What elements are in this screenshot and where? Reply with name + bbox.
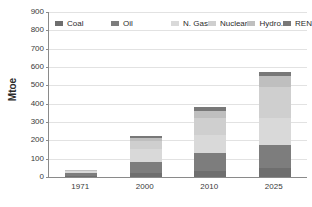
legend-swatch-icon: [171, 21, 179, 26]
bar-segment[interactable]: [194, 153, 226, 171]
y-axis-tick-label: 100: [31, 155, 44, 163]
bar-segment[interactable]: [259, 76, 291, 87]
y-axis-title-label: Mtoe: [8, 77, 19, 100]
bar-segment[interactable]: [130, 173, 162, 177]
bar-segment[interactable]: [65, 176, 97, 177]
legend-item[interactable]: Coal: [55, 17, 111, 29]
bar-segment[interactable]: [130, 162, 162, 173]
bar-stack[interactable]: [194, 107, 226, 177]
bar-segment[interactable]: [130, 141, 162, 149]
y-axis-tick-mark: [46, 177, 49, 178]
legend-swatch-icon: [208, 21, 216, 26]
x-axis-tick-label: 1971: [71, 182, 89, 192]
legend-label: N. Gas: [183, 19, 208, 28]
bar-segment[interactable]: [194, 111, 226, 118]
legend-item[interactable]: Oil: [111, 17, 171, 29]
legend-label: REN: [295, 19, 312, 28]
y-axis-tick-label: 700: [31, 45, 44, 53]
y-axis-tick-label: 400: [31, 100, 44, 108]
x-axis-tick-label: 2025: [265, 182, 283, 192]
y-axis-tick-label: 600: [31, 63, 44, 71]
plot-area: [48, 12, 307, 178]
stacked-bar-chart: Mtoe 0100200300400500600700800900 197120…: [0, 0, 312, 207]
y-axis-tick-label: 200: [31, 136, 44, 144]
legend-swatch-icon: [283, 21, 291, 26]
bar-stack[interactable]: [130, 136, 162, 177]
y-axis-tick-label: 800: [31, 26, 44, 34]
legend-label: Hydro.: [259, 19, 283, 28]
legend-swatch-icon: [247, 21, 255, 26]
legend-item[interactable]: Hydro.: [247, 17, 283, 29]
x-axis-tick-labels: 1971200020102025: [48, 182, 306, 196]
bar-segment[interactable]: [259, 87, 291, 118]
bar-segment[interactable]: [259, 118, 291, 145]
legend-label: Nuclear: [220, 19, 248, 28]
chart-legend: CoalOilN. GasNuclearHydro.REN: [55, 17, 312, 29]
bar-segment[interactable]: [259, 145, 291, 168]
legend-item[interactable]: N. Gas: [171, 17, 208, 29]
bar-segment[interactable]: [130, 149, 162, 161]
legend-item[interactable]: Nuclear: [208, 17, 248, 29]
x-axis-tick-label: 2000: [136, 182, 154, 192]
bar-segment[interactable]: [194, 118, 226, 135]
legend-label: Oil: [123, 19, 133, 28]
legend-swatch-icon: [111, 21, 119, 26]
bar-series-container: [49, 12, 307, 177]
bar-stack[interactable]: [259, 72, 291, 177]
y-axis-tick-labels: 0100200300400500600700800900: [20, 12, 46, 177]
bar-stack[interactable]: [65, 170, 97, 177]
y-axis-tick-label: 500: [31, 81, 44, 89]
bar-segment[interactable]: [194, 171, 226, 177]
legend-item[interactable]: REN: [283, 17, 312, 29]
legend-label: Coal: [67, 19, 83, 28]
legend-swatch-icon: [55, 21, 63, 26]
y-axis-tick-label: 900: [31, 8, 44, 16]
bar-segment[interactable]: [194, 135, 226, 154]
y-axis-tick-label: 300: [31, 118, 44, 126]
y-axis-tick-label: 0: [40, 173, 44, 181]
x-axis-tick-label: 2010: [200, 182, 218, 192]
bar-segment[interactable]: [259, 168, 291, 177]
